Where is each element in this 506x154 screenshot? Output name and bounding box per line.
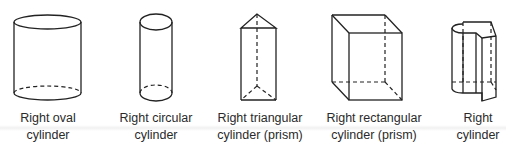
triangular-prism-icon xyxy=(241,14,276,100)
label-line: cylinder xyxy=(8,127,88,144)
label-line: cylinder xyxy=(448,127,506,144)
label-line: cylinder (prism) xyxy=(210,127,310,144)
label-line: cylinder (prism) xyxy=(321,127,427,144)
label-triangular-prism: Right triangular cylinder (prism) xyxy=(210,110,310,144)
label-line: Right triangular xyxy=(210,110,310,127)
label-line: Right oval xyxy=(8,110,88,127)
rectangular-prism-icon xyxy=(332,15,402,100)
label-line: Right xyxy=(448,110,506,127)
label-rectangular-prism: Right rectangular cylinder (prism) xyxy=(321,110,427,144)
label-oval-cylinder: Right oval cylinder xyxy=(8,110,88,144)
label-general-cylinder: Right cylinder xyxy=(448,110,506,144)
label-circular-cylinder: Right circular cylinder xyxy=(111,110,201,144)
label-line: Right rectangular xyxy=(321,110,427,127)
circular-cylinder-icon xyxy=(140,14,172,101)
label-line: cylinder xyxy=(111,127,201,144)
oval-cylinder-icon xyxy=(14,15,81,100)
label-line: Right circular xyxy=(111,110,201,127)
general-cylinder-icon xyxy=(452,22,496,101)
